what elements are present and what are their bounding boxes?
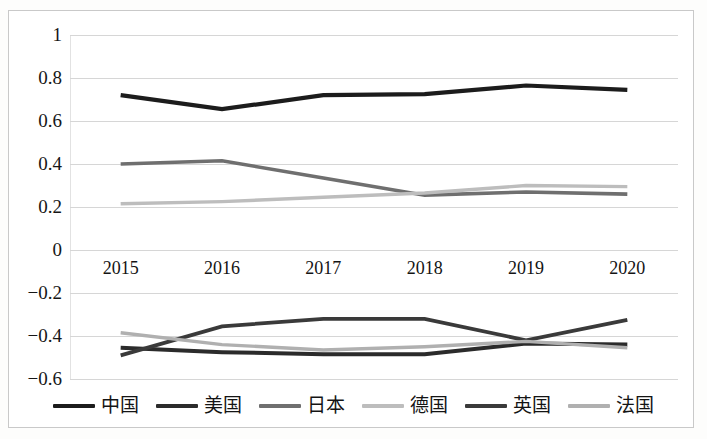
y-axis-tick-label: 0.8 [38,68,62,87]
legend-item[interactable]: 美国 [156,396,242,415]
x-axis-tick-label: 2017 [305,258,341,279]
gridline [70,379,678,380]
y-axis-tick-label: −0.4 [28,326,62,345]
legend-item-label: 法国 [616,396,654,415]
legend-line-icon [362,404,404,408]
legend-item-label: 美国 [204,396,242,415]
y-axis-tick-label: 0 [53,240,63,259]
legend-item-label: 英国 [513,396,551,415]
legend-item-label: 德国 [410,396,448,415]
series-line [121,161,628,195]
series-line [121,86,628,110]
legend-item[interactable]: 德国 [362,396,448,415]
x-axis-tick-label: 2016 [204,258,240,279]
y-axis-tick-label: −0.6 [28,369,62,388]
legend-line-icon [156,404,198,408]
x-axis-tick-label: 2019 [508,258,544,279]
legend-item-label: 日本 [307,396,345,415]
legend-line-icon [465,404,507,408]
x-axis-tick-label: 2015 [103,258,139,279]
y-axis-tick-label: 0.6 [38,111,62,130]
legend-item[interactable]: 法国 [568,396,654,415]
legend-line-icon [568,404,610,408]
legend-line-icon [259,404,301,408]
y-axis-tick-label: 1 [53,25,63,44]
x-axis-tick-label: 2020 [609,258,645,279]
y-axis-tick-labels: 10.80.60.40.20−0.2−0.4−0.6 [0,0,62,439]
legend-line-icon [53,404,95,408]
x-axis-tick-label: 2018 [407,258,443,279]
legend-item-label: 中国 [101,396,139,415]
legend-item[interactable]: 英国 [465,396,551,415]
y-axis-tick-label: 0.2 [38,197,62,216]
y-axis-tick-label: 0.4 [38,154,62,173]
series-lines [70,35,678,379]
chart-container: 10.80.60.40.20−0.2−0.4−0.6 2015201620172… [0,0,707,439]
chart-legend: 中国美国日本德国英国法国 [0,396,707,415]
legend-item[interactable]: 日本 [259,396,345,415]
plot-area [70,35,678,379]
y-axis-tick-label: −0.2 [28,283,62,302]
legend-item[interactable]: 中国 [53,396,139,415]
